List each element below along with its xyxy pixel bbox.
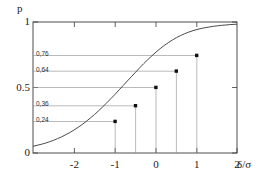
y-tick-label-0: 0 — [8, 146, 30, 158]
marker-point-4 — [175, 69, 178, 72]
x-tick-label-minus-1: -1 — [103, 158, 127, 170]
y-axis-title: p — [17, 2, 23, 14]
y-tick-label-0-5: 0.5 — [4, 81, 30, 93]
x-tick-label-0: 0 — [144, 158, 168, 170]
x-tick-label-1: 1 — [185, 158, 209, 170]
plot-canvas — [0, 0, 259, 180]
horizontal-leader-lines — [33, 56, 197, 122]
y-tick-label-1: 1 — [8, 15, 30, 27]
marker-point-2 — [134, 104, 137, 107]
cdf-curve — [33, 24, 237, 146]
x-tick-label-2: 2 — [225, 158, 249, 170]
marker-point-3 — [154, 86, 157, 89]
point-value-label-024: 0,24 — [36, 116, 49, 123]
marker-point-1 — [113, 120, 116, 123]
x-tick-label-minus-2: -2 — [62, 158, 86, 170]
vertical-drop-lines — [115, 56, 197, 154]
point-value-label-076: 0,76 — [36, 50, 49, 57]
probit-curve-figure: p δ/σ 0 0.5 1 -2 -1 0 1 2 0,76 0,64 0,36… — [0, 0, 259, 180]
point-value-label-064: 0,64 — [36, 66, 49, 73]
marker-point-5 — [195, 54, 198, 57]
point-value-label-036: 0,36 — [36, 100, 49, 107]
